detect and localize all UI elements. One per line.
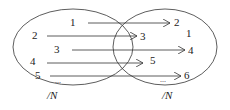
right-element-6: 6 bbox=[184, 69, 190, 81]
right-set-label: /N bbox=[161, 89, 173, 101]
left-element-5: 5 bbox=[35, 69, 41, 81]
left-element-3: 3 bbox=[54, 43, 60, 55]
left-element-1: 1 bbox=[70, 16, 76, 28]
mapping-diagram: 1 2 3 4 5 ... 2 1 3 4 5 6 ... /N /N bbox=[0, 0, 230, 110]
right-set-ellipse bbox=[113, 9, 217, 85]
diagram-svg: 1 2 3 4 5 ... 2 1 3 4 5 6 ... /N /N bbox=[0, 0, 230, 110]
left-element-2: 2 bbox=[32, 29, 38, 41]
right-element-3: 3 bbox=[140, 30, 146, 42]
right-element-5: 5 bbox=[150, 54, 156, 66]
right-element-4: 4 bbox=[188, 44, 194, 56]
left-set-label: /N bbox=[46, 89, 58, 101]
right-element-2: 2 bbox=[174, 16, 180, 28]
left-element-4: 4 bbox=[30, 55, 36, 67]
right-element-1: 1 bbox=[186, 27, 192, 39]
right-element-ellipsis: ... bbox=[160, 75, 166, 84]
left-element-ellipsis: ... bbox=[55, 76, 61, 85]
